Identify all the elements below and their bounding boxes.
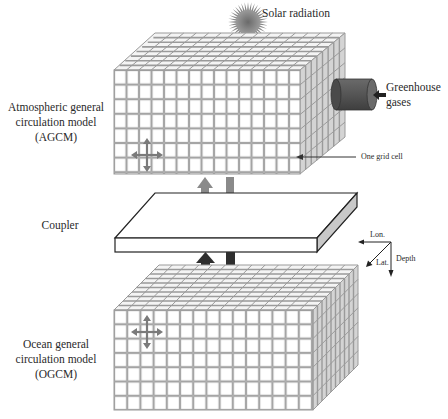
ogcm-line-1: Ocean general xyxy=(0,337,112,352)
lon-axis-label: Lon. xyxy=(370,230,400,240)
atmosphere-grid-box xyxy=(114,33,345,174)
solar-radiation-label: Solar radiation xyxy=(262,6,362,21)
ogcm-label: Ocean general circulation model (OGCM) xyxy=(0,337,112,382)
grid-cell-label: One grid cell xyxy=(361,152,441,162)
coupler-slab xyxy=(115,193,357,252)
agcm-line-3: (AGCM) xyxy=(0,130,112,145)
ogcm-line-2: circulation model xyxy=(0,352,112,367)
agcm-label: Atmospheric general circulation model (A… xyxy=(0,100,112,145)
agcm-line-1: Atmospheric general xyxy=(0,100,112,115)
depth-axis-label: Depth xyxy=(396,254,436,264)
agcm-line-2: circulation model xyxy=(0,115,112,130)
atmosphere-front-face xyxy=(114,70,300,174)
greenhouse-gas-cylinder-icon xyxy=(331,79,377,110)
ocean-grid-box xyxy=(114,265,358,410)
greenhouse-line-2: gases xyxy=(386,95,448,110)
greenhouse-gases-label: Greenhouse gases xyxy=(386,80,448,110)
ocean-front-face xyxy=(114,310,313,410)
ogcm-line-3: (OGCM) xyxy=(0,367,112,382)
coupler-label: Coupler xyxy=(30,218,90,233)
greenhouse-line-1: Greenhouse xyxy=(386,80,448,95)
